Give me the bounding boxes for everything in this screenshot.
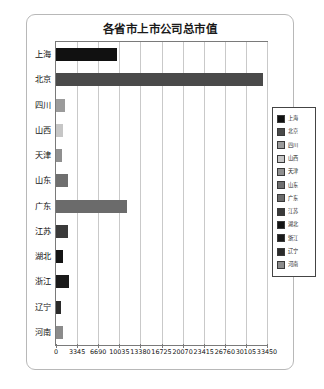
bar-row: 辽宁	[56, 295, 267, 320]
bar-row: 湖北	[56, 244, 267, 269]
x-tick-label: 26760	[215, 348, 235, 356]
legend-item[interactable]: 北京	[277, 125, 312, 138]
legend-swatch-icon	[277, 181, 285, 189]
legend-label: 广东	[288, 196, 298, 201]
bar	[56, 48, 117, 61]
y-axis-label: 北京	[9, 72, 51, 84]
legend-swatch-icon	[277, 168, 285, 176]
bar	[56, 250, 63, 263]
bar	[56, 174, 68, 187]
legend-swatch-icon	[277, 141, 285, 149]
y-axis-label: 山西	[9, 123, 51, 135]
x-tick-label: 16725	[151, 348, 171, 356]
legend-swatch-icon	[277, 248, 285, 256]
legend-label: 江苏	[288, 209, 298, 214]
bar	[56, 301, 61, 314]
legend-item[interactable]: 河南	[277, 258, 312, 271]
legend-item[interactable]: 广东	[277, 192, 312, 205]
legend-swatch-icon	[277, 155, 285, 163]
y-axis-label: 浙江	[9, 274, 51, 286]
bar	[56, 200, 127, 213]
legend-item[interactable]: 湖北	[277, 218, 312, 231]
legend-label: 浙江	[288, 236, 298, 241]
bar	[56, 124, 63, 137]
bar	[56, 149, 62, 162]
bar-row: 山东	[56, 168, 267, 193]
x-axis: 0334566901003513380167252007023415267603…	[55, 348, 268, 362]
legend-item[interactable]: 辽宁	[277, 245, 312, 258]
legend-item[interactable]: 浙江	[277, 232, 312, 245]
legend-swatch-icon	[277, 208, 285, 216]
legend-label: 北京	[288, 129, 298, 134]
legend-label: 四川	[288, 143, 298, 148]
bar-row: 浙江	[56, 269, 267, 294]
legend-swatch-icon	[277, 261, 285, 269]
x-tick-label: 10035	[109, 348, 129, 356]
page-title: 各省市上市公司总市值	[26, 20, 294, 36]
bar	[56, 326, 63, 339]
bar	[56, 275, 69, 288]
legend-swatch-icon	[277, 234, 285, 242]
bar-row: 河南	[56, 320, 267, 345]
x-tick-label: 6690	[90, 348, 106, 356]
y-axis-label: 天津	[9, 148, 51, 160]
x-tick-label: 0	[54, 348, 58, 356]
legend-swatch-icon	[277, 128, 285, 136]
y-axis-label: 江苏	[9, 224, 51, 236]
bar-row: 上海	[56, 42, 267, 67]
bar-row: 山西	[56, 118, 267, 143]
legend-label: 上海	[288, 116, 298, 121]
plot-area: 上海北京四川山西天津山东广东江苏湖北浙江辽宁河南	[55, 41, 268, 346]
bar	[56, 99, 65, 112]
y-axis-label: 山东	[9, 173, 51, 185]
bar-row: 天津	[56, 143, 267, 168]
legend-item[interactable]: 天津	[277, 165, 312, 178]
chart-legend: 上海北京四川山西天津山东广东江苏湖北浙江辽宁河南	[272, 107, 316, 277]
x-tick-label: 30105	[236, 348, 256, 356]
bar	[56, 73, 263, 86]
y-axis-label: 四川	[9, 98, 51, 110]
bar	[56, 225, 68, 238]
bar-row: 广东	[56, 194, 267, 219]
y-axis-label: 河南	[9, 325, 51, 337]
legend-label: 天津	[288, 169, 298, 174]
legend-item[interactable]: 山西	[277, 152, 312, 165]
legend-label: 河南	[288, 262, 298, 267]
legend-item[interactable]: 上海	[277, 112, 312, 125]
legend-swatch-icon	[277, 115, 285, 123]
legend-swatch-icon	[277, 194, 285, 202]
legend-item[interactable]: 四川	[277, 139, 312, 152]
legend-label: 山东	[288, 183, 298, 188]
bar-row: 四川	[56, 93, 267, 118]
x-tick-label: 13380	[130, 348, 150, 356]
legend-swatch-icon	[277, 221, 285, 229]
y-axis-label: 广东	[9, 199, 51, 211]
legend-label: 山西	[288, 156, 298, 161]
gridline	[267, 42, 268, 345]
legend-item[interactable]: 江苏	[277, 205, 312, 218]
y-axis-label: 辽宁	[9, 300, 51, 312]
y-axis-label: 上海	[9, 47, 51, 59]
legend-label: 辽宁	[288, 249, 298, 254]
x-tick-label: 33450	[257, 348, 277, 356]
x-tick-label: 20070	[172, 348, 192, 356]
bar-row: 北京	[56, 67, 267, 92]
legend-item[interactable]: 山东	[277, 178, 312, 191]
legend-label: 湖北	[288, 222, 298, 227]
x-tick-label: 3345	[69, 348, 85, 356]
x-tick-label: 23415	[194, 348, 214, 356]
y-axis-label: 湖北	[9, 249, 51, 261]
bar-row: 江苏	[56, 219, 267, 244]
